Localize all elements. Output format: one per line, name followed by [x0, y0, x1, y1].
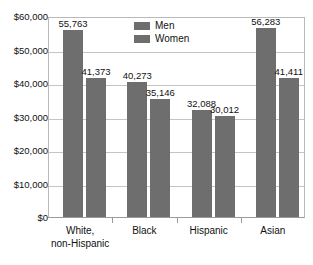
- legend-swatch-icon: [134, 22, 150, 30]
- y-axis-tick-label: $30,000: [2, 113, 48, 123]
- y-axis-tick-label: $60,000: [2, 12, 48, 22]
- bar-men: 40,273: [127, 82, 147, 217]
- bar-men: 56,283: [256, 28, 276, 217]
- bar-group: 40,27335,146: [113, 18, 177, 217]
- x-axis-category-label: Asian: [241, 225, 305, 238]
- bar-women: 41,411: [279, 78, 299, 217]
- x-axis-tick: [177, 218, 178, 223]
- legend: Men Women: [134, 19, 189, 45]
- bar-group: 55,76341,373: [49, 18, 113, 217]
- y-axis: $0$10,000$20,000$30,000$40,000$50,000$60…: [0, 0, 48, 265]
- bar-value-label: 40,273: [123, 70, 152, 81]
- y-axis-tick-label: $10,000: [2, 180, 48, 190]
- bar-women: 30,012: [215, 116, 235, 217]
- bar-value-label: 56,283: [251, 16, 280, 27]
- bar-group: 32,08830,012: [178, 18, 242, 217]
- bar-men: 32,088: [192, 110, 212, 217]
- x-axis-category-line: Asian: [241, 225, 305, 238]
- x-axis-tick: [241, 218, 242, 223]
- bar-chart: $0$10,000$20,000$30,000$40,000$50,000$60…: [0, 0, 313, 265]
- bar-women: 35,146: [150, 99, 170, 217]
- bar-value-label: 35,146: [146, 87, 175, 98]
- y-axis-tick-label: $40,000: [2, 79, 48, 89]
- bar-women: 41,373: [86, 78, 106, 217]
- bar-value-label: 41,373: [81, 66, 110, 77]
- bar-value-label: 41,411: [275, 66, 303, 77]
- x-axis-tick: [112, 218, 113, 223]
- legend-label: Women: [155, 33, 189, 44]
- plot-area: 55,76341,37340,27335,14632,08830,01256,2…: [48, 17, 305, 218]
- x-axis-category-label: Black: [112, 225, 176, 238]
- legend-item-men: Men: [134, 19, 189, 32]
- x-axis-category-line: White,: [48, 225, 112, 238]
- legend-label: Men: [155, 20, 174, 31]
- x-axis-category-label: White,non-Hispanic: [48, 225, 112, 250]
- y-axis-tick-label: $20,000: [2, 146, 48, 156]
- x-axis-category-line: non-Hispanic: [48, 238, 112, 251]
- y-axis-tick-label: $0: [2, 213, 48, 223]
- bar-group: 56,28341,411: [242, 18, 306, 217]
- bar-value-label: 55,763: [58, 18, 87, 29]
- bar-men: 55,763: [63, 30, 83, 217]
- legend-swatch-icon: [134, 35, 150, 43]
- bar-value-label: 30,012: [210, 104, 239, 115]
- x-axis-category-line: Black: [112, 225, 176, 238]
- y-axis-tick-label: $50,000: [2, 46, 48, 56]
- x-axis-category-label: Hispanic: [177, 225, 241, 238]
- legend-item-women: Women: [134, 32, 189, 45]
- x-axis-category-line: Hispanic: [177, 225, 241, 238]
